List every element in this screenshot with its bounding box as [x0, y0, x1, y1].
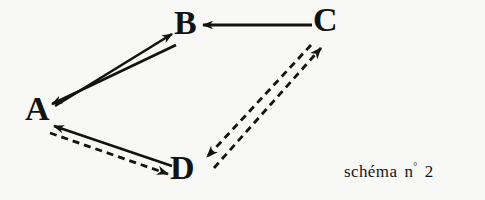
node-label-a: A	[25, 92, 50, 126]
caption-ordinal-mark: °	[413, 161, 417, 172]
edge-d-to-a	[54, 126, 172, 166]
node-label-d: D	[170, 151, 195, 185]
figure-caption: schéman°2	[344, 162, 434, 182]
edge-b-to-a	[52, 45, 176, 104]
diagram-figure: A B C D schéman°2	[0, 0, 485, 200]
node-label-c: C	[313, 3, 338, 37]
edge-d-to-c	[214, 48, 321, 168]
caption-ordinal-prefix: n	[404, 162, 413, 181]
edge-a-to-d	[50, 133, 168, 174]
caption-number: 2	[425, 162, 434, 181]
node-label-b: B	[174, 6, 197, 40]
caption-ordinal: n°	[404, 162, 417, 181]
caption-word: schéma	[344, 162, 397, 181]
edge-c-to-d	[207, 45, 311, 157]
